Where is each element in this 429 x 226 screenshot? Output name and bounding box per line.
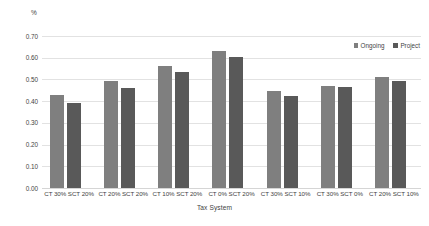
gridline — [42, 188, 421, 189]
y-axis-tick-label: 0.20 — [14, 141, 38, 148]
bar-project[interactable] — [229, 57, 243, 188]
y-axis-tick-label: 0.40 — [14, 98, 38, 105]
y-axis-unit-label: % — [31, 9, 37, 16]
bar-group — [204, 36, 258, 188]
y-axis-tick-label: 0.50 — [14, 76, 38, 83]
x-axis-tick-label: CT 30% SCT 20% — [42, 190, 96, 198]
bar-project[interactable] — [67, 103, 81, 188]
x-axis-tick-label: CT 0% SCT 20% — [204, 190, 258, 198]
bar-group — [259, 36, 313, 188]
bar-group — [42, 36, 96, 188]
bar-project[interactable] — [175, 72, 189, 188]
bar-ongoing[interactable] — [50, 95, 64, 188]
x-axis-tick-label: CT 20% SCT 10% — [367, 190, 421, 198]
bar-project[interactable] — [338, 87, 352, 188]
legend-label: Ongoing — [361, 42, 385, 49]
legend-swatch-project — [393, 43, 398, 48]
plot-area — [42, 36, 421, 188]
bar-group — [96, 36, 150, 188]
bar-ongoing[interactable] — [267, 91, 281, 188]
x-axis-tick-label: CT 20% SCT 20% — [96, 190, 150, 198]
bar-project[interactable] — [284, 96, 298, 188]
x-axis-tick-label: CT 30% SCT 10% — [259, 190, 313, 198]
x-axis-tick-label: CT 10% SCT 20% — [150, 190, 204, 198]
bar-group — [313, 36, 367, 188]
chart-legend: OngoingProject — [354, 42, 420, 49]
y-axis-tick-label: 0.10 — [14, 163, 38, 170]
bar-ongoing[interactable] — [158, 66, 172, 188]
y-axis-tick-label: 0.30 — [14, 119, 38, 126]
bar-project[interactable] — [392, 81, 406, 188]
y-axis-tick-labels: 0.000.100.200.300.400.500.600.70 — [12, 36, 38, 188]
y-axis-tick-label: 0.60 — [14, 54, 38, 61]
bar-ongoing[interactable] — [104, 81, 118, 188]
bar-group — [367, 36, 421, 188]
bar-ongoing[interactable] — [212, 51, 226, 188]
y-axis-tick-label: 0.00 — [14, 185, 38, 192]
y-axis-tick-label: 0.70 — [14, 33, 38, 40]
x-axis-tick-labels: CT 30% SCT 20%CT 20% SCT 20%CT 10% SCT 2… — [42, 190, 421, 202]
legend-item[interactable]: Ongoing — [354, 42, 385, 49]
bar-project[interactable] — [121, 88, 135, 188]
bar-group — [150, 36, 204, 188]
legend-swatch-ongoing — [354, 43, 359, 48]
bar-ongoing[interactable] — [321, 86, 335, 188]
x-axis-tick-label: CT 30% SCT 0% — [313, 190, 367, 198]
bar-chart: % 0.000.100.200.300.400.500.600.70 CT 30… — [0, 0, 429, 226]
legend-label: Project — [400, 42, 420, 49]
legend-item[interactable]: Project — [393, 42, 420, 49]
bar-ongoing[interactable] — [375, 77, 389, 188]
x-axis-title: Tax System — [0, 204, 429, 211]
bar-series-container — [42, 36, 421, 188]
